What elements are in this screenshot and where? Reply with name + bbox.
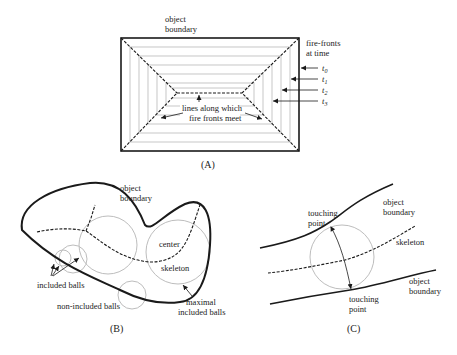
label-t0: t0 (322, 63, 327, 74)
panel-a: object boundary fire-fronts at time t0 t… (121, 14, 340, 171)
label-object-boundary-c-top: object (383, 197, 404, 207)
label-touching-point-top: touching (308, 208, 338, 218)
label-object-boundary-a: object (165, 14, 186, 24)
panel-c: touching point object boundary skeleton … (260, 184, 442, 335)
label-touching-point-top-2: point (308, 218, 326, 228)
label-skeleton-c: skeleton (396, 237, 425, 247)
label-maximal: maximal (186, 297, 216, 307)
label-t3: t3 (322, 96, 327, 107)
skeleton-c (268, 226, 415, 273)
label-lines-along-which: lines along which (182, 103, 243, 113)
maximal-ball-right (146, 220, 210, 284)
skeleton-curve (37, 205, 200, 262)
label-object-boundary-b-2: boundary (120, 193, 153, 203)
label-non-included-balls: non-included balls (57, 301, 120, 311)
label-fire-fronts-meet: fire fronts meet (189, 113, 242, 123)
label-included-balls: included balls (37, 280, 84, 290)
label-touching-point-bottom: touching (349, 294, 379, 304)
arrow-meet-right (245, 113, 262, 119)
skeleton-diagram: object boundary fire-fronts at time t0 t… (0, 0, 457, 355)
maximal-ball-c (310, 225, 374, 289)
label-touching-point-bottom-2: point (349, 304, 367, 314)
arrow-meet-left (161, 113, 183, 118)
label-t2: t2 (322, 85, 327, 96)
label-object-boundary-a-2: boundary (165, 24, 198, 34)
arrow-maximal (183, 285, 192, 296)
caption-a: (A) (201, 159, 215, 171)
label-object-boundary-c-top-2: boundary (383, 207, 416, 217)
label-center: center (159, 239, 180, 249)
label-object-boundary-c-bottom: object (409, 276, 430, 286)
label-object-boundary-b: object (120, 183, 141, 193)
label-maximal-included-balls: included balls (178, 307, 225, 317)
label-object-boundary-c-bottom-2: boundary (409, 286, 442, 296)
label-t1: t1 (322, 74, 327, 85)
label-skeleton-b: skeleton (161, 263, 190, 273)
skeleton-branch (86, 205, 95, 231)
label-at-time: at time (306, 48, 330, 58)
caption-c: (C) (347, 323, 360, 335)
maximal-ball-left (79, 216, 137, 274)
label-fire-fronts: fire-fronts (306, 38, 340, 48)
fire-front-contours (130, 47, 290, 142)
panel-b: object boundary center skeleton included… (22, 183, 226, 335)
caption-b: (B) (110, 323, 123, 335)
arrow-touching-points (331, 227, 351, 289)
